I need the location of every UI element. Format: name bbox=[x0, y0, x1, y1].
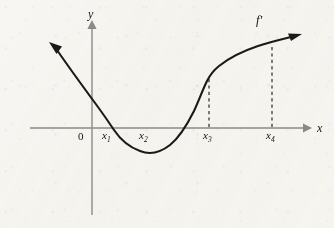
x-axis-label: x bbox=[317, 122, 322, 134]
curve-right-arrowhead-icon bbox=[288, 34, 302, 42]
tick-label-x4: x4 bbox=[266, 130, 275, 144]
tick-label-x1: x1 bbox=[102, 130, 111, 144]
origin-label: 0 bbox=[78, 131, 84, 142]
y-axis-label: y bbox=[88, 8, 93, 20]
curve-f-prime bbox=[49, 34, 302, 153]
curve-label-f-prime: f′ bbox=[256, 14, 262, 27]
curve-label-prime: ′ bbox=[259, 13, 262, 27]
graph-figure: y x 0 x1 x2 x3 x4 f′ bbox=[0, 0, 334, 228]
tick-label-x2-sub: 2 bbox=[144, 135, 148, 144]
x-axis-arrowhead-icon bbox=[303, 123, 312, 132]
y-axis bbox=[87, 20, 96, 215]
tick-label-x1-sub: 1 bbox=[107, 135, 111, 144]
tick-label-x3: x3 bbox=[203, 130, 212, 144]
y-axis-arrowhead-icon bbox=[87, 20, 96, 29]
plot-canvas bbox=[0, 0, 334, 228]
tick-label-x3-sub: 3 bbox=[208, 135, 212, 144]
tick-label-x2: x2 bbox=[139, 130, 148, 144]
curve-left-arrowhead-icon bbox=[49, 42, 62, 54]
tick-label-x4-sub: 4 bbox=[271, 135, 275, 144]
